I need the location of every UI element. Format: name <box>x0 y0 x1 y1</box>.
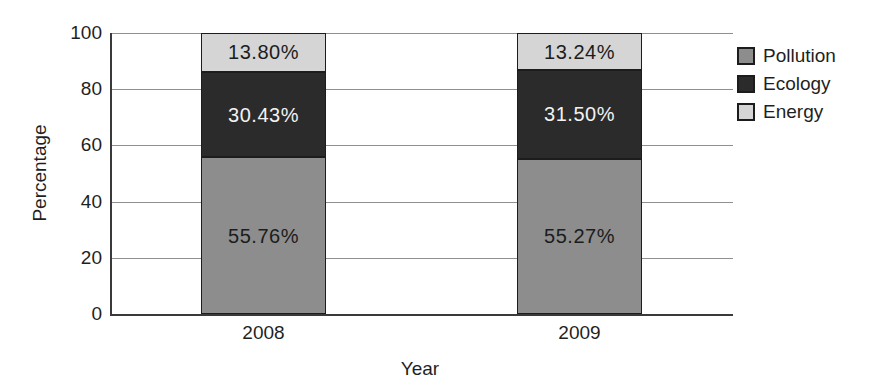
y-tick-label-100: 100 <box>42 22 102 44</box>
bar-2009: 55.27%31.50%13.24% <box>517 33 642 314</box>
segment-ecology-2008: 30.43% <box>201 72 326 158</box>
plot-area: 02040608010055.76%30.43%13.80%200855.27%… <box>110 33 733 316</box>
segment-ecology-2009: 31.50% <box>517 70 642 159</box>
x-tick-label-2009: 2009 <box>520 322 640 344</box>
legend-swatch-energy-icon <box>737 103 755 121</box>
segment-value-label: 30.43% <box>202 103 325 126</box>
legend-swatch-ecology-icon <box>737 75 755 93</box>
legend-label-ecology: Ecology <box>763 73 831 95</box>
segment-pollution-2009: 55.27% <box>517 159 642 314</box>
segment-energy-2009: 13.24% <box>517 33 642 70</box>
y-tick-label-80: 80 <box>42 78 102 100</box>
legend-row-energy: Energy <box>737 98 836 126</box>
legend-swatch-pollution-icon <box>737 47 755 65</box>
segment-pollution-2008: 55.76% <box>201 157 326 314</box>
legend: PollutionEcologyEnergy <box>737 42 836 126</box>
y-tick-label-0: 0 <box>42 303 102 325</box>
segment-value-label: 13.24% <box>518 40 641 63</box>
bar-2008: 55.76%30.43%13.80% <box>201 33 326 314</box>
segment-value-label: 31.50% <box>518 103 641 126</box>
segment-energy-2008: 13.80% <box>201 33 326 72</box>
segment-value-label: 13.80% <box>202 41 325 64</box>
segment-value-label: 55.76% <box>202 224 325 247</box>
y-tick-label-40: 40 <box>42 191 102 213</box>
stacked-bar-chart-figure: Percentage 02040608010055.76%30.43%13.80… <box>0 0 875 388</box>
legend-label-energy: Energy <box>763 101 823 123</box>
x-tick-label-2008: 2008 <box>204 322 324 344</box>
y-tick-label-20: 20 <box>42 247 102 269</box>
x-axis-title: Year <box>401 358 439 380</box>
y-tick-label-60: 60 <box>42 134 102 156</box>
segment-value-label: 55.27% <box>518 225 641 248</box>
legend-label-pollution: Pollution <box>763 45 836 67</box>
legend-row-pollution: Pollution <box>737 42 836 70</box>
legend-row-ecology: Ecology <box>737 70 836 98</box>
